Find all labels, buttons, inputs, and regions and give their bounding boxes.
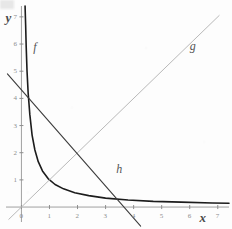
y-tick-label: 6: [13, 41, 17, 48]
y-tick-label: 5: [13, 68, 17, 75]
x-tick-label: 5: [160, 213, 164, 220]
x-tick-label: 3: [104, 213, 108, 220]
x-tick-label: 7: [216, 213, 220, 220]
y-tick-label: 1: [13, 177, 17, 184]
curve-g: [9, 16, 219, 220]
plot-canvas: [0, 0, 232, 229]
y-tick-label: 4: [13, 95, 17, 102]
math-plot-figure: 012345671234567 y x f g h: [0, 0, 232, 229]
x-tick-label: 0: [19, 213, 23, 220]
x-tick-label: 4: [132, 213, 136, 220]
curve-label-f: f: [33, 41, 36, 53]
series-group: [7, 6, 229, 226]
y-axis-label: y: [5, 11, 11, 24]
x-tick-label: 2: [76, 213, 80, 220]
x-tick-label: 6: [188, 213, 192, 220]
y-tick-label: 3: [13, 123, 17, 130]
y-tick-label: 2: [13, 150, 17, 157]
x-tick-label: 1: [47, 213, 51, 220]
curve-h: [7, 74, 140, 226]
y-tick-label: 7: [13, 14, 17, 21]
curve-label-h: h: [116, 163, 122, 175]
x-axis-label: x: [200, 211, 207, 224]
curve-label-g: g: [190, 40, 196, 52]
